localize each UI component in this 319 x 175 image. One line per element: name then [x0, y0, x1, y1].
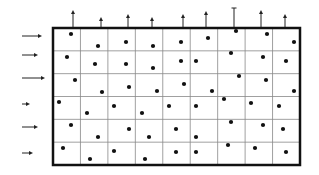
particle-dot: [284, 150, 288, 154]
particle-dot: [194, 150, 198, 154]
particle-dot: [96, 44, 100, 48]
particle-dot: [222, 97, 226, 101]
particle-dot: [167, 104, 171, 108]
particle-dot: [237, 74, 241, 78]
particle-dot: [210, 89, 214, 93]
outflow-tick-icon: [232, 8, 237, 27]
outflow-arrow-icon: [283, 14, 287, 27]
particle-dot: [292, 89, 296, 93]
particle-dot: [206, 36, 210, 40]
particle-dot: [229, 120, 233, 124]
particle-dot: [261, 55, 265, 59]
particle-dot: [284, 59, 288, 63]
particle-dot: [277, 104, 281, 108]
particle-dot: [127, 127, 131, 131]
particle-dot: [85, 111, 89, 115]
grid-lines: [53, 28, 300, 165]
particle-dot: [112, 149, 116, 153]
particle-dot: [194, 104, 198, 108]
particle-dot: [61, 146, 65, 150]
particle-dot: [264, 78, 268, 82]
particle-dot: [73, 78, 77, 82]
particle-dot: [155, 89, 159, 93]
inflow-arrow-icon: [22, 125, 38, 129]
particle-dot: [249, 101, 253, 105]
particle-dot: [179, 59, 183, 63]
particle-dots: [57, 29, 296, 161]
particle-dot: [57, 100, 61, 104]
particle-dot: [182, 82, 186, 86]
particle-dot: [253, 146, 257, 150]
particle-dot: [179, 40, 183, 44]
outflow-arrow-icon: [71, 10, 75, 27]
particle-dot: [174, 127, 178, 131]
particle-dot: [261, 123, 265, 127]
particle-dot: [234, 29, 238, 33]
particle-dot: [194, 59, 198, 63]
outflow-arrow-icon: [181, 14, 185, 27]
particle-dot: [265, 32, 269, 36]
outflow-arrow-icon: [126, 14, 130, 27]
particle-dot: [65, 55, 69, 59]
inflow-arrows: [22, 34, 45, 155]
outflow-arrow-icon: [150, 17, 154, 27]
particle-dot: [194, 135, 198, 139]
particle-dot: [174, 150, 178, 154]
inflow-arrow-icon: [22, 34, 42, 38]
particle-dot: [281, 127, 285, 131]
particle-dot: [112, 104, 116, 108]
particle-dot: [69, 123, 73, 127]
particle-dot: [292, 40, 296, 44]
particle-dot: [151, 44, 155, 48]
outflow-arrow-icon: [259, 10, 263, 27]
particle-dot: [100, 90, 104, 94]
particle-dot: [229, 51, 233, 55]
outflow-arrow-icon: [99, 17, 103, 27]
particle-dot: [69, 32, 73, 36]
particle-grid-diagram: [0, 0, 319, 175]
outflow-arrows: [71, 8, 287, 27]
particle-dot: [93, 62, 97, 66]
particle-dot: [226, 143, 230, 147]
diagram-canvas: [0, 0, 319, 175]
inflow-arrow-icon: [22, 76, 45, 80]
inflow-arrow-icon: [22, 53, 38, 57]
particle-dot: [147, 135, 151, 139]
inflow-arrow-icon: [22, 102, 30, 106]
particle-dot: [96, 135, 100, 139]
particle-dot: [124, 62, 128, 66]
inflow-arrow-icon: [22, 151, 33, 155]
particle-dot: [143, 157, 147, 161]
particle-dot: [151, 66, 155, 70]
particle-dot: [124, 40, 128, 44]
particle-dot: [140, 111, 144, 115]
particle-dot: [88, 157, 92, 161]
particle-dot: [127, 85, 131, 89]
outflow-arrow-icon: [204, 11, 208, 27]
